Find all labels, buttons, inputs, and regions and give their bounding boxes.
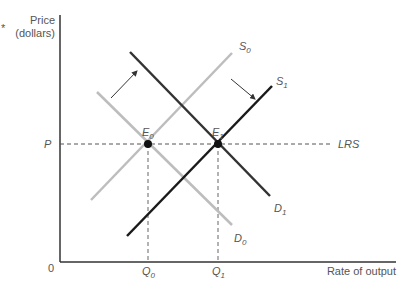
y-axis-label-line2: (dollars) [15,27,55,39]
lrs-label: LRS [338,138,360,150]
origin-label: 0 [48,262,54,274]
d1-label: D1 [274,202,286,217]
demand-shift-arrow-icon [111,71,137,98]
demand-curve-d0 [97,92,232,225]
supply-curve-s0 [91,53,232,200]
d0-label: D0 [234,232,247,247]
diagram-canvas: * Price (dollars) Rate of output 0 P LRS… [0,0,409,290]
s1-label: S1 [276,75,288,90]
footnote-marker: * [1,22,6,34]
equilibrium-point-e1 [214,140,222,148]
supply-curve-s1 [127,86,272,236]
x-axis-label: Rate of output [327,265,396,277]
price-label: P [44,138,52,150]
s0-label: S0 [239,40,251,55]
q0-label: Q0 [142,265,156,280]
y-axis-label-line1: Price [30,14,55,26]
q1-label: Q1 [212,265,225,280]
demand-curve-d1 [130,52,270,196]
supply-shift-arrow-icon [231,79,255,99]
equilibrium-point-e0 [144,140,152,148]
